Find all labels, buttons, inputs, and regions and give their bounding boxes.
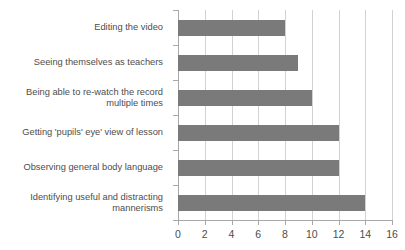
bar	[178, 125, 339, 141]
value-axis-tick	[339, 220, 340, 225]
gridline	[392, 10, 393, 220]
value-axis-tick	[232, 220, 233, 225]
category-label: Getting 'pupils' eye' view of lesson	[0, 115, 170, 150]
value-axis-tick-label: 6	[255, 227, 261, 241]
bar	[178, 20, 285, 36]
horizontal-bar-chart: Editing the video Seeing themselves as t…	[0, 0, 405, 250]
value-axis-tick-label: 2	[202, 227, 208, 241]
value-axis-tick-marks	[178, 220, 393, 225]
value-axis-tick-label: 12	[333, 227, 345, 241]
category-label: Editing the video	[0, 10, 170, 45]
bar-slot	[178, 10, 392, 45]
bar	[178, 55, 298, 71]
bar-slot	[178, 150, 392, 185]
value-axis-tick-label: 14	[359, 227, 371, 241]
bar-slot	[178, 45, 392, 80]
category-label: Identifying useful and distracting manne…	[0, 185, 170, 220]
value-axis-tick	[365, 220, 366, 225]
category-label: Being able to re-watch the record multip…	[0, 80, 170, 115]
value-axis-tick	[205, 220, 206, 225]
value-axis-tick-labels: 0246810121416	[178, 227, 393, 243]
value-axis-tick-label: 0	[175, 227, 181, 241]
value-axis-tick	[178, 220, 179, 225]
value-axis-tick	[285, 220, 286, 225]
category-label: Observing general body language	[0, 150, 170, 185]
value-axis-tick	[312, 220, 313, 225]
bar-slot	[178, 80, 392, 115]
value-axis-tick	[392, 220, 393, 225]
bar	[178, 160, 339, 176]
value-axis-tick-label: 4	[229, 227, 235, 241]
bar-slot	[178, 115, 392, 150]
value-axis-tick-label: 10	[306, 227, 318, 241]
bar	[178, 195, 365, 211]
value-axis-tick-label: 16	[386, 227, 398, 241]
bars-layer	[178, 10, 392, 220]
value-axis-tick	[258, 220, 259, 225]
category-label: Seeing themselves as teachers	[0, 45, 170, 80]
value-axis-tick-label: 8	[282, 227, 288, 241]
bar	[178, 90, 312, 106]
bar-slot	[178, 185, 392, 220]
plot-area	[178, 10, 392, 220]
category-axis: Editing the video Seeing themselves as t…	[0, 10, 170, 220]
